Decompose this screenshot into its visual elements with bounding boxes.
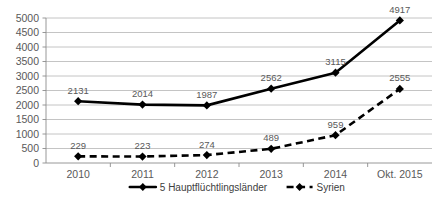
data-point-label: 3115 <box>325 56 345 67</box>
data-point-label: 2555 <box>389 72 410 83</box>
x-axis-tick-label: 2013 <box>259 168 283 180</box>
y-axis-tick-label: 4500 <box>16 26 40 38</box>
y-axis-tick-label: 3500 <box>16 55 40 67</box>
y-axis-tick-label: 500 <box>21 142 39 154</box>
data-point-label: 959 <box>328 119 344 130</box>
y-axis-tick-label: 4000 <box>16 41 40 53</box>
x-axis-tick-label: 2014 <box>324 168 348 180</box>
x-axis-tick-label: 2010 <box>66 168 90 180</box>
data-point-label: 2562 <box>261 72 282 83</box>
y-axis-tick-label: 3000 <box>16 70 40 82</box>
data-point-label: 223 <box>135 140 151 151</box>
data-point-label: 229 <box>70 140 86 151</box>
chart-canvas: 5000450040003500300025002000150010005000… <box>0 0 446 200</box>
y-axis-tick-label: 1000 <box>16 128 40 140</box>
legend-label: 5 Hauptflüchtlingsländer <box>160 182 268 193</box>
line-chart: 5000450040003500300025002000150010005000… <box>0 0 446 200</box>
data-point-label: 489 <box>263 132 279 143</box>
data-point-label: 4917 <box>389 4 410 15</box>
legend-label: Syrien <box>317 182 345 193</box>
x-axis-tick-label: Okt. 2015 <box>377 168 423 180</box>
y-axis-tick-label: 1500 <box>16 113 40 125</box>
data-point-label: 1987 <box>196 89 217 100</box>
x-axis-tick-label: 2012 <box>195 168 219 180</box>
data-point-label: 274 <box>199 139 215 150</box>
data-point-label: 2014 <box>132 88 153 99</box>
y-axis-tick-label: 0 <box>33 157 39 169</box>
y-axis-tick-label: 5000 <box>16 12 40 24</box>
x-axis-tick-label: 2011 <box>131 168 154 180</box>
y-axis-tick-label: 2500 <box>16 84 40 96</box>
data-point-label: 2131 <box>68 85 89 96</box>
y-axis-tick-label: 2000 <box>16 99 40 111</box>
